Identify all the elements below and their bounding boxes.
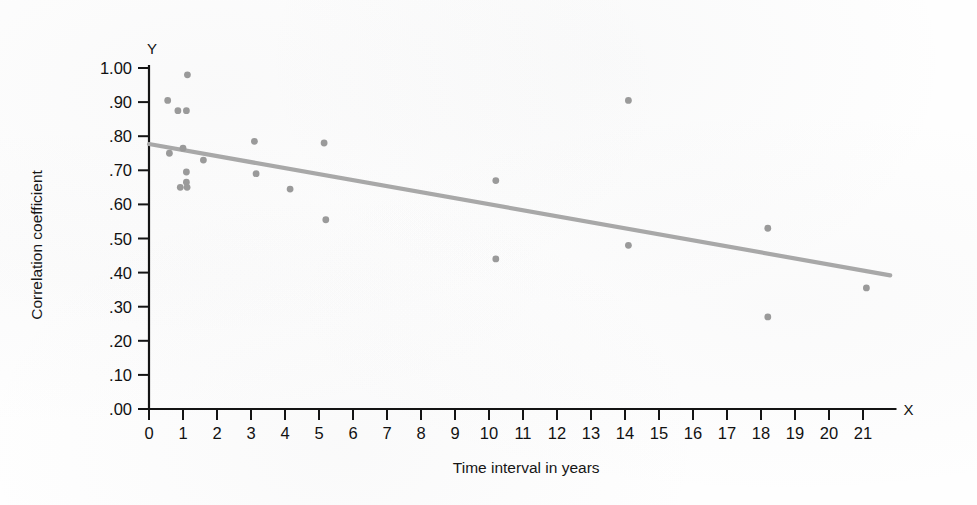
x-tick-label: 17 bbox=[718, 424, 736, 442]
x-tick-label: 7 bbox=[382, 424, 391, 442]
x-tick-label: 2 bbox=[212, 424, 221, 442]
x-tick-label: 1 bbox=[178, 424, 187, 442]
y-tick-label: .30 bbox=[109, 298, 132, 316]
data-point bbox=[166, 150, 173, 157]
x-tick-label: 13 bbox=[582, 424, 600, 442]
x-tick-label: 8 bbox=[416, 424, 425, 442]
data-point bbox=[287, 186, 294, 193]
x-tick-label: 9 bbox=[450, 424, 459, 442]
data-point bbox=[183, 107, 190, 114]
y-tick-label: .50 bbox=[109, 230, 132, 248]
data-point bbox=[321, 140, 328, 147]
x-tick-label: 4 bbox=[280, 424, 289, 442]
x-tick-label: 18 bbox=[752, 424, 770, 442]
x-tick-label: 20 bbox=[820, 424, 838, 442]
y-tick-label: .60 bbox=[109, 195, 132, 213]
x-axis-title: Time interval in years bbox=[453, 459, 600, 476]
y-axis-title: Correlation coefficient bbox=[28, 170, 45, 320]
x-tick-label: 11 bbox=[514, 424, 531, 442]
regression-line bbox=[149, 144, 890, 275]
x-tick-label: 6 bbox=[348, 424, 357, 442]
scatter-plot: .00.10.20.30.40.50.60.70.80.901.00012345… bbox=[0, 0, 977, 505]
y-axis-name-label: Y bbox=[147, 40, 157, 57]
data-point bbox=[164, 97, 171, 104]
data-point bbox=[253, 170, 260, 177]
data-point bbox=[625, 97, 632, 104]
x-axis-name-label: X bbox=[903, 401, 913, 418]
y-tick-label: .20 bbox=[109, 332, 132, 350]
data-point bbox=[180, 145, 187, 152]
y-tick-label: .40 bbox=[109, 264, 132, 282]
x-tick-label: 15 bbox=[650, 424, 668, 442]
y-tick-label: .90 bbox=[109, 93, 132, 111]
data-point bbox=[251, 138, 258, 145]
data-point bbox=[764, 314, 771, 321]
data-point bbox=[177, 184, 184, 191]
data-point bbox=[183, 169, 190, 176]
x-tick-label: 0 bbox=[144, 424, 153, 442]
x-tick-label: 21 bbox=[854, 424, 872, 442]
data-point bbox=[184, 71, 191, 78]
data-point bbox=[764, 225, 771, 232]
y-tick-label: .80 bbox=[109, 127, 132, 145]
y-tick-label: .70 bbox=[109, 161, 132, 179]
x-tick-label: 3 bbox=[246, 424, 255, 442]
data-point bbox=[175, 107, 182, 114]
y-tick-label: .10 bbox=[109, 366, 132, 384]
x-tick-label: 14 bbox=[616, 424, 634, 442]
data-point bbox=[322, 216, 329, 223]
data-point bbox=[200, 157, 207, 164]
data-point bbox=[863, 285, 870, 292]
data-point bbox=[625, 242, 632, 249]
x-tick-label: 19 bbox=[786, 424, 804, 442]
data-point bbox=[492, 256, 499, 263]
x-tick-label: 5 bbox=[314, 424, 323, 442]
chart-page: .00.10.20.30.40.50.60.70.80.901.00012345… bbox=[0, 0, 977, 505]
data-point bbox=[492, 177, 499, 184]
x-tick-label: 16 bbox=[684, 424, 702, 442]
y-tick-label: .00 bbox=[109, 400, 132, 418]
x-tick-label: 10 bbox=[480, 424, 498, 442]
data-point bbox=[184, 184, 191, 191]
y-tick-label: 1.00 bbox=[100, 59, 132, 77]
x-tick-label: 12 bbox=[548, 424, 566, 442]
